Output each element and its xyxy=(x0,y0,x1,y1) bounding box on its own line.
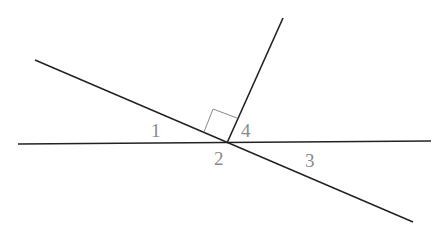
angle-label-2: 2 xyxy=(214,148,224,169)
angle-diagram: 1 2 3 4 xyxy=(0,0,446,235)
perpendicular-ray xyxy=(227,18,283,143)
diagram-canvas: 1 2 3 4 xyxy=(0,0,446,235)
angle-label-3: 3 xyxy=(305,150,315,171)
angle-label-4: 4 xyxy=(241,120,251,141)
right-angle-marker xyxy=(204,109,237,132)
angle-label-1: 1 xyxy=(151,120,161,141)
